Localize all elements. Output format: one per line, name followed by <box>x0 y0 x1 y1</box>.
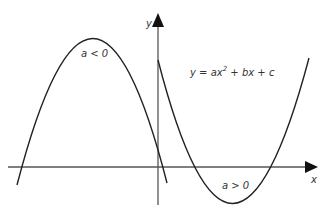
upward-parabola-label: a > 0 <box>222 180 249 191</box>
x-axis-arrow-icon <box>305 161 318 173</box>
downward-parabola-label: a < 0 <box>81 48 108 59</box>
downward-parabola <box>17 38 167 185</box>
quadratic-diagram: y x a < 0 a > 0 y = ax2 + bx + c <box>0 0 328 216</box>
equation-suffix: + bx + c <box>227 67 275 78</box>
equation-label: y = ax2 + bx + c <box>189 65 275 78</box>
y-axis-arrow-icon <box>152 13 164 27</box>
y-axis-label: y <box>145 18 153 29</box>
x-axis-label: x <box>310 174 317 185</box>
equation-prefix: y = ax <box>189 67 223 78</box>
